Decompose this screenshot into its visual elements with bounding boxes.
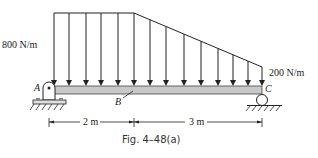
point-b-label: B (115, 96, 121, 107)
beam-diagram: 800 N/m 200 N/m A B (0, 0, 318, 158)
beam (54, 86, 262, 94)
load-left-label: 800 N/m (2, 39, 38, 50)
dim-right-label: 3 m (189, 116, 205, 127)
roller-support-c (246, 95, 282, 112)
load-right-label: 200 N/m (269, 67, 305, 78)
dim-left-label: 2 m (83, 116, 99, 127)
dimension-lines (49, 118, 262, 127)
point-c-label: C (265, 83, 272, 94)
distributed-load (51, 13, 265, 86)
figure-caption: Fig. 4–48(a) (122, 134, 181, 145)
point-a-label: A (33, 82, 41, 93)
